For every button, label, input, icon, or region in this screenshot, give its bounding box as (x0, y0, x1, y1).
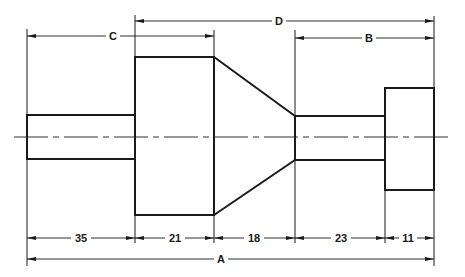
dimension-c: C (27, 29, 214, 43)
dimension-b-label: B (365, 32, 373, 44)
dimension-d: D (135, 14, 434, 28)
middle-shaft (295, 116, 385, 160)
taper-cone-top (214, 57, 295, 116)
dimension-11-label: 11 (402, 232, 414, 244)
technical-drawing: C D B 35 21 18 (0, 0, 465, 277)
dimension-a-label: A (217, 253, 225, 265)
end-head (385, 88, 434, 190)
dimension-b: B (295, 31, 434, 45)
dimension-c-label: C (109, 30, 117, 42)
part-outline (27, 57, 434, 215)
dimension-a: A (27, 252, 434, 266)
extension-lines (27, 15, 434, 266)
large-cylinder (135, 57, 214, 215)
taper-cone-bottom (214, 160, 295, 215)
dimension-23-label: 23 (335, 232, 347, 244)
dimension-18-label: 18 (248, 232, 260, 244)
dimension-35-label: 35 (75, 232, 87, 244)
dimension-21-label: 21 (169, 232, 181, 244)
bottom-dimension-chain: 35 21 18 23 11 (27, 231, 434, 245)
dimension-d-label: D (275, 15, 283, 27)
